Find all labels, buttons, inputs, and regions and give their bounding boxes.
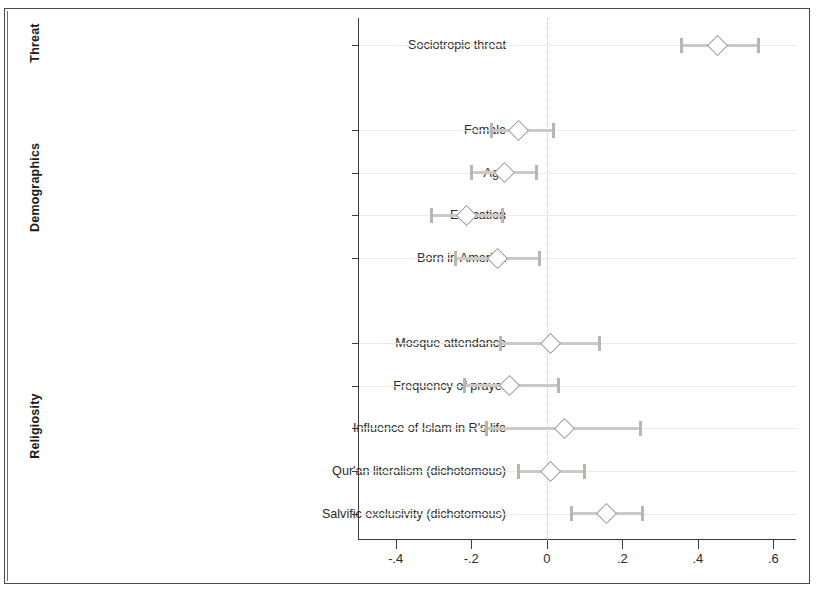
point-estimate-diamond-marker <box>596 503 617 524</box>
gridline <box>359 386 796 387</box>
ci-upper-cap <box>538 251 541 266</box>
ci-lower-cap <box>463 378 466 393</box>
ci-lower-cap <box>517 464 520 479</box>
x-axis-tick <box>622 540 623 549</box>
x-axis-tick-label: .2 <box>617 551 628 566</box>
ci-lower-cap <box>570 506 573 521</box>
x-axis-tick <box>396 540 397 549</box>
ci-upper-cap <box>501 208 504 223</box>
x-axis-tick <box>698 540 699 549</box>
x-axis-line <box>358 539 796 540</box>
point-estimate-diamond-marker <box>540 460 561 481</box>
y-axis-tick <box>352 343 358 344</box>
point-estimate-diamond-marker <box>707 34 728 55</box>
point-estimate-diamond-marker <box>487 247 508 268</box>
ci-lower-cap <box>485 421 488 436</box>
ci-upper-cap <box>757 38 760 53</box>
ci-upper-cap <box>583 464 586 479</box>
ci-lower-cap <box>680 38 683 53</box>
y-axis-tick <box>352 428 358 429</box>
ci-upper-cap <box>639 421 642 436</box>
y-axis-line <box>358 18 359 540</box>
y-axis-tick <box>352 45 358 46</box>
point-estimate-diamond-marker <box>508 120 529 141</box>
x-axis-tick <box>547 540 548 549</box>
point-estimate-diamond-marker <box>554 418 575 439</box>
gridline <box>359 215 796 216</box>
ci-upper-cap <box>557 378 560 393</box>
gridline <box>359 258 796 259</box>
ci-lower-cap <box>470 165 473 180</box>
ci-lower-cap <box>454 251 457 266</box>
ci-lower-cap <box>490 123 493 138</box>
gridline <box>359 130 796 131</box>
ci-upper-cap <box>641 506 644 521</box>
point-estimate-diamond-marker <box>494 162 515 183</box>
x-axis-tick-label: .4 <box>692 551 703 566</box>
y-axis-tick <box>352 386 358 387</box>
y-axis-tick <box>352 173 358 174</box>
group-label-threat: Threat <box>28 3 42 83</box>
gridline <box>359 173 796 174</box>
y-axis-tick <box>352 258 358 259</box>
point-estimate-diamond-marker <box>540 333 561 354</box>
plot-area: -.4-.20.2.4.6 <box>358 18 796 540</box>
y-axis-tick <box>352 130 358 131</box>
ci-upper-cap <box>552 123 555 138</box>
ci-upper-cap <box>535 165 538 180</box>
x-axis-tick-label: -.4 <box>388 551 403 566</box>
ci-lower-cap <box>499 336 502 351</box>
coefficient-plot-figure: ThreatDemographicsReligiosity Sociotropi… <box>0 0 818 595</box>
x-axis-tick <box>471 540 472 549</box>
y-axis-tick <box>352 471 358 472</box>
ci-lower-cap <box>430 208 433 223</box>
point-estimate-diamond-marker <box>456 205 477 226</box>
point-estimate-diamond-marker <box>499 375 520 396</box>
x-axis-tick-label: .6 <box>768 551 779 566</box>
group-label-demographics: Demographics <box>28 152 42 232</box>
ci-upper-cap <box>598 336 601 351</box>
x-axis-tick <box>773 540 774 549</box>
x-axis-tick-label: 0 <box>543 551 550 566</box>
y-axis-tick <box>352 215 358 216</box>
y-axis-tick <box>352 514 358 515</box>
x-axis-tick-label: -.2 <box>464 551 479 566</box>
group-label-religiosity: Religiosity <box>28 386 42 466</box>
